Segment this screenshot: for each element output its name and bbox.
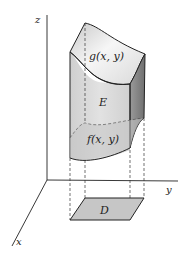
bottom-surface-label: f(x, y) [86, 133, 119, 146]
top-surface-label: g(x, y) [89, 50, 124, 63]
base-region-label: D [99, 204, 109, 217]
y-axis-label: y [165, 184, 172, 195]
y-axis [47, 180, 178, 181]
solid-label: E [98, 96, 107, 109]
solid-E: g(x, y) E f(x, y) [70, 23, 145, 160]
region-D: D [70, 198, 144, 220]
solid-region-diagram: z y x g(x, y) E f(x, y) [0, 0, 189, 258]
x-axis-label: x [16, 236, 22, 247]
z-axis-label: z [34, 14, 41, 25]
